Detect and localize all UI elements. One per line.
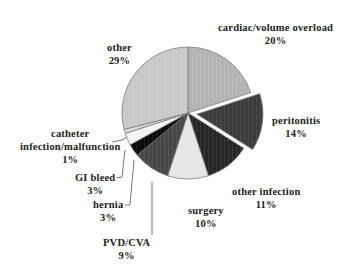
label-name: hernia <box>93 198 123 211</box>
label-pct: 20% <box>218 34 333 47</box>
label-catheter: catheter infection/malfunction 1% <box>20 127 120 166</box>
label-name: other infection <box>232 185 300 198</box>
label-pct: 1% <box>20 153 120 166</box>
label-name-2: infection/malfunction <box>20 140 120 153</box>
label-pct: 9% <box>103 249 150 262</box>
label-surgery: surgery 10% <box>188 204 224 230</box>
leader-line-hernia <box>125 160 134 205</box>
label-pct: 14% <box>272 127 320 140</box>
label-name: surgery <box>188 204 224 217</box>
label-name: peritonitis <box>272 114 320 127</box>
label-pvd-cva: PVD/CVA 9% <box>103 236 150 262</box>
pie-slices <box>122 47 263 179</box>
label-name: catheter <box>20 127 120 140</box>
label-pct: 11% <box>232 198 300 211</box>
label-gi-bleed: GI bleed 3% <box>75 171 115 197</box>
label-cardiac: cardiac/volume overload 20% <box>218 21 333 47</box>
label-hernia: hernia 3% <box>93 198 123 224</box>
label-pct: 10% <box>188 217 224 230</box>
label-other-infection: other infection 11% <box>232 185 300 211</box>
label-pct: 29% <box>107 54 132 67</box>
label-name: cardiac/volume overload <box>218 21 333 34</box>
label-name: PVD/CVA <box>103 236 150 249</box>
label-name: other <box>107 41 132 54</box>
label-pct: 3% <box>75 184 115 197</box>
label-other: other 29% <box>107 41 132 67</box>
label-peritonitis: peritonitis 14% <box>272 114 320 140</box>
label-pct: 3% <box>93 211 123 224</box>
label-name: GI bleed <box>75 171 115 184</box>
